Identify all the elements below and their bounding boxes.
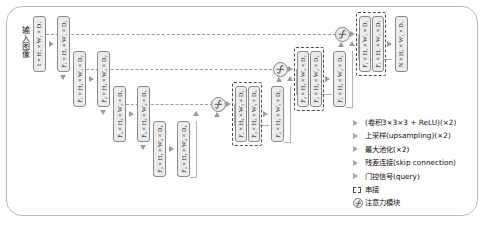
arrow-conv-dec-l1 — [387, 41, 392, 47]
decoder-concat-l1-1: F₁ × H₁ × W₁ × D₁ — [359, 16, 371, 72]
arrow-conv-l2 — [89, 76, 94, 82]
arrow-upsample-l3 — [287, 76, 293, 81]
encoder-block-l3-2: F₃ × H₃ × W₃ × D₃ — [137, 86, 150, 142]
legend-item-upsampling: 上采样(upsampling)(×2) — [352, 129, 480, 142]
arrow-pool-l1 — [60, 75, 66, 80]
arrow-gate-in-l1 — [338, 42, 344, 47]
arrow-conv-l1 — [49, 41, 54, 47]
encoder-block-l2-1: F₁ × H₂ × W₂ × D₂ — [73, 51, 86, 107]
arrow-pool-l3 — [140, 145, 146, 150]
arrow-gate-in-l3 — [214, 112, 220, 117]
decoder-concat-l3-1: F₁ × H₃ × W₃ × D₃ — [235, 86, 247, 142]
arrow-upsample-l2 — [349, 41, 355, 46]
arrow-pool-l2 — [100, 110, 106, 115]
triangle-icon — [352, 160, 365, 166]
bottleneck-block-1: F₃ × H₄ × W₄ × D₄ — [153, 121, 166, 177]
triangle-icon — [352, 120, 365, 126]
legend-item-maxpool: 最大池化(×2) — [352, 143, 480, 156]
arrow-conv-dec-l2 — [325, 76, 330, 82]
encoder-block-l1-1: 1 × H₁ × W₁ × D₁ — [33, 16, 46, 72]
attention-module-level3 — [211, 97, 226, 112]
input-image-label: 输入图像 — [20, 26, 30, 58]
triangle-icon — [352, 133, 365, 139]
arrow-gate-in-l2 — [276, 77, 282, 82]
arrow-conv-l4 — [169, 146, 174, 152]
encoder-block-l2-2: F₂ × H₂ × W₂ × D₂ — [97, 51, 110, 107]
arrow-conv-dec-l3 — [263, 111, 268, 117]
attention-circle-icon — [352, 198, 365, 208]
upsample-line-l2 — [352, 51, 353, 107]
arrow-upsample-l4 — [193, 111, 199, 116]
arrow-attention-out-l2 — [288, 66, 293, 72]
decoder-concat-l2-1: F₂ × H₂ × W₂ × D₂ — [297, 51, 309, 107]
legend-item-concat: 串接 — [352, 183, 480, 196]
decoder-concat-l2-2: F₂ × H₂ × W₂ × D₂ — [310, 51, 322, 107]
arrow-conv-l3 — [129, 111, 134, 117]
attention-module-level1 — [335, 27, 350, 42]
decoder-concat-l1-2: F₁ × H₁ × W₁ × D₁ — [372, 16, 384, 72]
decoder-block-l1-out: N × H₁ × W₁ × D₁ — [395, 16, 408, 72]
upsample-line-l4 — [196, 121, 197, 177]
arrow-attention-out-l1 — [350, 31, 355, 37]
upsample-line-l4-h — [190, 177, 197, 178]
skip-line-level2 — [86, 69, 282, 70]
legend-item-attention-module: 注意力模块 — [352, 196, 480, 209]
encoder-block-l3-1: F₂ × H₃ × W₃ × D₃ — [113, 86, 126, 142]
skip-line-level1 — [46, 34, 346, 35]
bottleneck-block-2: F₄ × H₄ × W₄ × D₄ — [177, 121, 190, 177]
attention-module-level2 — [273, 62, 288, 77]
encoder-block-l1-2: F₁ × H₁ × W₁ × D₁ — [57, 16, 70, 72]
legend-item-gating-signal: 门控信号(query) — [352, 170, 480, 183]
upsample-line-l2-h — [346, 107, 353, 108]
decoder-block-l2-out: F₁ × H₂ × W₂ × D₂ — [333, 51, 346, 107]
upsample-line-l3 — [290, 86, 291, 142]
triangle-icon — [352, 173, 365, 179]
upsample-line-l3-h — [284, 142, 291, 143]
diagram-canvas: 输入图像 1 × H₁ × W₁ × D₁ F₁ × H₁ × W₁ × D₁ … — [0, 0, 486, 228]
decoder-concat-l3-2: F₃ × H₃ × W₃ × D₃ — [248, 86, 260, 142]
arrow-attention-out-l3 — [226, 101, 231, 107]
triangle-icon — [352, 146, 365, 152]
legend-item-skip-connection: 残差连接(skip connection) — [352, 156, 480, 169]
dashed-box-icon — [352, 187, 365, 193]
decoder-block-l3-out: F₂ × H₃ × W₃ × D₃ — [271, 86, 284, 142]
legend-item-conv: (卷积3×3×3 + ReLU)(×2) — [352, 116, 480, 129]
legend: (卷积3×3×3 + ReLU)(×2) 上采样(upsampling)(×2)… — [352, 116, 480, 210]
